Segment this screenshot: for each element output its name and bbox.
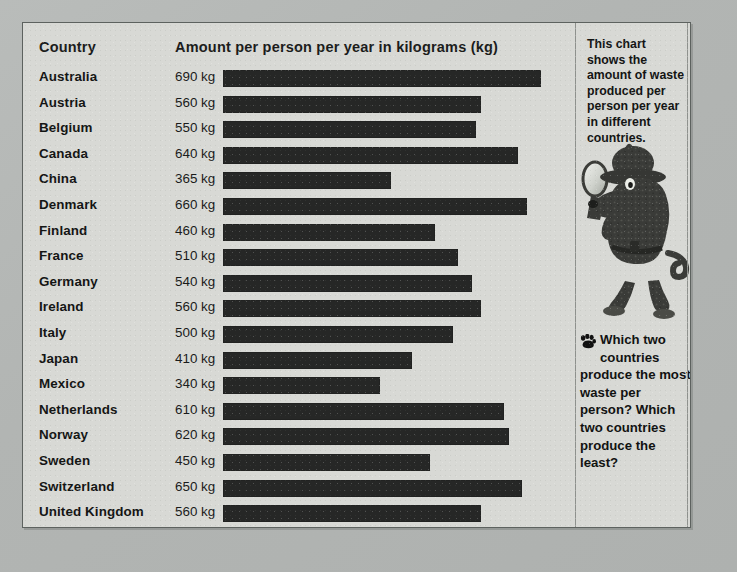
bar	[223, 428, 509, 445]
bar-track	[223, 121, 576, 138]
bar	[223, 275, 472, 292]
chart-row: Mexico340 kg	[23, 374, 576, 400]
bar	[223, 326, 453, 343]
country-label: Mexico	[39, 376, 85, 391]
chart-row: Switzerland650 kg	[23, 477, 576, 503]
country-label: Sweden	[39, 453, 90, 468]
bar	[223, 377, 380, 394]
value-label: 410 kg	[175, 351, 215, 366]
value-label: 560 kg	[175, 504, 215, 519]
chart-row: Germany540 kg	[23, 272, 576, 298]
question-text: Which two countries produce the most was…	[580, 331, 691, 472]
country-label: Denmark	[39, 197, 97, 212]
value-label: 650 kg	[175, 479, 215, 494]
bar	[223, 96, 481, 113]
country-label: Netherlands	[39, 402, 118, 417]
chart-row: Finland460 kg	[23, 221, 576, 247]
bar-track	[223, 377, 576, 394]
chart-row: Italy500 kg	[23, 323, 576, 349]
bar-track	[223, 70, 576, 87]
value-label: 620 kg	[175, 427, 215, 442]
chart-row: Japan410 kg	[23, 349, 576, 375]
country-label: United Kingdom	[39, 504, 144, 519]
country-label: Norway	[39, 427, 88, 442]
detective-dog-illustration	[578, 135, 690, 325]
value-label: 640 kg	[175, 146, 215, 161]
chart-sheet: Country Amount per person per year in ki…	[22, 22, 691, 528]
bar-track	[223, 198, 576, 215]
country-label: Ireland	[39, 299, 84, 314]
country-label: Australia	[39, 69, 97, 84]
paw-print-icon	[580, 334, 596, 349]
value-label: 660 kg	[175, 197, 215, 212]
bar	[223, 70, 541, 87]
bar-track	[223, 428, 576, 445]
bar-track	[223, 96, 576, 113]
bar	[223, 249, 458, 266]
chart-row: China365 kg	[23, 169, 576, 195]
column-header-country: Country	[39, 39, 96, 55]
chart-row: Denmark660 kg	[23, 195, 576, 221]
bar-track	[223, 403, 576, 420]
bar-track	[223, 326, 576, 343]
value-label: 610 kg	[175, 402, 215, 417]
country-label: Austria	[39, 95, 86, 110]
bar	[223, 300, 481, 317]
value-label: 510 kg	[175, 248, 215, 263]
bar	[223, 172, 391, 189]
chart-area: Country Amount per person per year in ki…	[23, 23, 576, 527]
country-label: Canada	[39, 146, 88, 161]
value-label: 540 kg	[175, 274, 215, 289]
column-header-amount: Amount per person per year in kilograms …	[175, 39, 498, 55]
bar	[223, 403, 504, 420]
bar-track	[223, 505, 576, 522]
chart-row: Netherlands610 kg	[23, 400, 576, 426]
country-label: Belgium	[39, 120, 93, 135]
bar	[223, 121, 476, 138]
bar-track	[223, 480, 576, 497]
chart-row: Austria560 kg	[23, 93, 576, 119]
value-label: 450 kg	[175, 453, 215, 468]
chart-row: Sweden450 kg	[23, 451, 576, 477]
chart-header-row: Country Amount per person per year in ki…	[23, 39, 576, 61]
country-label: Finland	[39, 223, 87, 238]
bar	[223, 505, 481, 522]
country-label: Germany	[39, 274, 98, 289]
chart-row: France510 kg	[23, 246, 576, 272]
question-block: Which two countries produce the most was…	[580, 331, 691, 472]
chart-description-text: This chart shows the amount of waste pro…	[587, 37, 687, 146]
chart-row: Norway620 kg	[23, 425, 576, 451]
country-label: Japan	[39, 351, 78, 366]
chart-row: Belgium550 kg	[23, 118, 576, 144]
bar	[223, 480, 522, 497]
bar-track	[223, 454, 576, 471]
bar-track	[223, 300, 576, 317]
bar	[223, 352, 412, 369]
bar	[223, 198, 527, 215]
bar-track	[223, 352, 576, 369]
value-label: 560 kg	[175, 95, 215, 110]
bar	[223, 454, 430, 471]
bar-track	[223, 249, 576, 266]
chart-row: United Kingdom560 kg	[23, 502, 576, 528]
value-label: 690 kg	[175, 69, 215, 84]
value-label: 560 kg	[175, 299, 215, 314]
dog-nose	[588, 200, 598, 208]
chart-row: Canada640 kg	[23, 144, 576, 170]
value-label: 340 kg	[175, 376, 215, 391]
bar-track	[223, 224, 576, 241]
country-label: France	[39, 248, 84, 263]
chart-row: Ireland560 kg	[23, 297, 576, 323]
country-label: Italy	[39, 325, 66, 340]
chart-row: Australia690 kg	[23, 67, 576, 93]
bar-track	[223, 275, 576, 292]
bar-track	[223, 147, 576, 164]
country-label: China	[39, 171, 77, 186]
bar-track	[223, 172, 576, 189]
side-panel: This chart shows the amount of waste pro…	[576, 23, 690, 527]
value-label: 460 kg	[175, 223, 215, 238]
bar	[223, 224, 435, 241]
vertical-divider-right	[687, 23, 688, 527]
country-label: Switzerland	[39, 479, 115, 494]
page-background: Country Amount per person per year in ki…	[0, 0, 737, 572]
